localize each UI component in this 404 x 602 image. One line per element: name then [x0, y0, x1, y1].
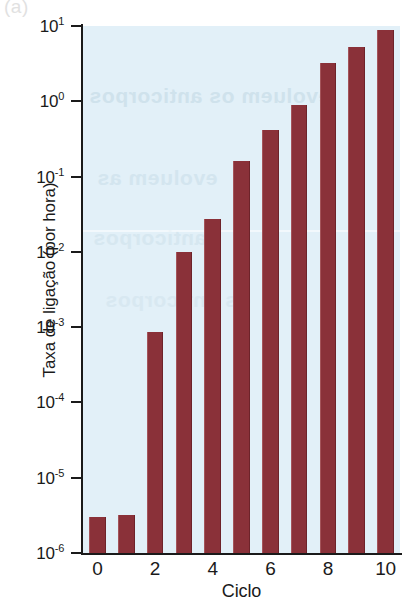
y-tick-1e-5 [71, 477, 82, 479]
y-tick-1e-2 [71, 251, 82, 253]
y-tick-label-1e-5: 10-5 [36, 467, 64, 489]
y-tick-1e0 [71, 100, 82, 102]
plot-area: evoluem os anticorpos evoluem as anticor… [83, 26, 400, 553]
bar-cycle-3 [176, 252, 193, 553]
bar-cycle-6 [262, 130, 279, 553]
y-tick-1e1 [71, 25, 82, 27]
bar-cycle-1 [118, 515, 135, 553]
y-tick-1e-1 [71, 176, 82, 178]
x-axis-title: Ciclo [83, 581, 400, 602]
x-tick-label-4: 4 [193, 558, 233, 580]
y-tick-1e-3 [71, 326, 82, 328]
y-tick-label-1e0: 100 [40, 90, 64, 112]
bar-cycle-9 [348, 47, 365, 553]
y-tick-1e-6 [71, 552, 82, 554]
bar-cycle-5 [233, 161, 250, 553]
x-axis-line [81, 553, 402, 555]
x-tick-label-6: 6 [250, 558, 290, 580]
y-axis-title: Taxa de ligação (por hora) [40, 130, 60, 430]
bar-cycle-10 [377, 30, 394, 553]
x-tick-label-8: 8 [308, 558, 348, 580]
bar-cycle-0 [89, 517, 106, 553]
figure-container: (a) evoluem os anticorpos evoluem as ant… [0, 0, 404, 602]
bar-cycle-4 [204, 219, 221, 553]
x-tick-label-0: 0 [77, 558, 117, 580]
bar-cycle-8 [320, 63, 337, 553]
x-tick-label-2: 2 [135, 558, 175, 580]
bar-cycle-2 [147, 332, 164, 553]
y-tick-label-1e1: 101 [40, 15, 64, 37]
x-tick-label-10: 10 [366, 558, 404, 580]
y-tick-label-1e-6: 10-6 [36, 542, 64, 564]
ghost-text-line-2: evoluem as [97, 166, 217, 190]
y-axis-line [81, 24, 83, 555]
bar-cycle-7 [291, 105, 308, 553]
y-tick-1e-4 [71, 401, 82, 403]
ghost-text-line-3: anticorpos [93, 226, 206, 250]
panel-letter: (a) [4, 0, 29, 18]
